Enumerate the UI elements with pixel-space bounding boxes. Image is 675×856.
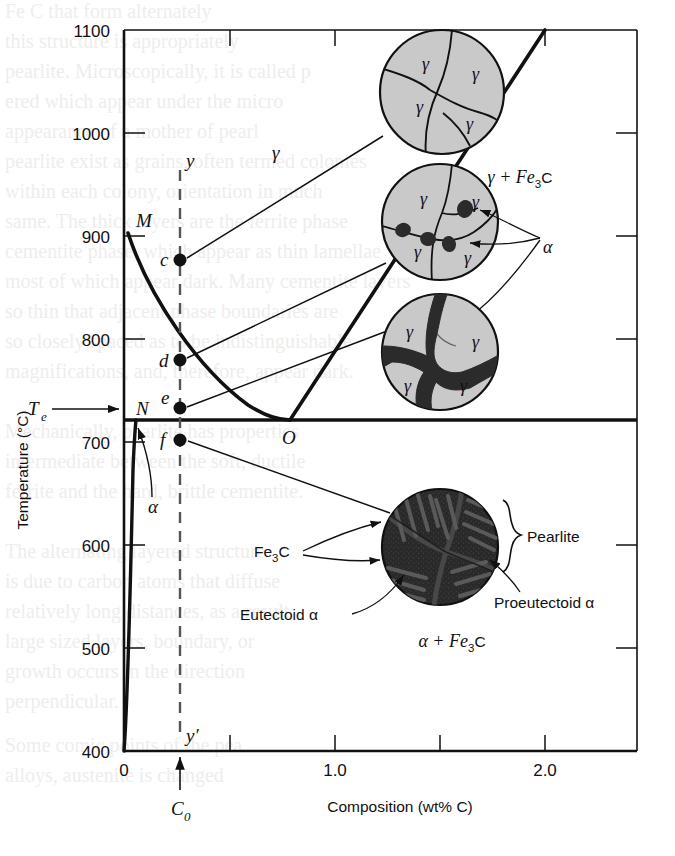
- phase-diagram-figure: Fe C that form alternately this structur…: [0, 0, 675, 856]
- y-tick-700: 700: [82, 434, 110, 453]
- micrograph2-gamma-1: γ: [420, 189, 428, 209]
- point-marker-f: [174, 434, 187, 447]
- svg-text:is due to carbon atoms that di: is due to carbon atoms that diffuse: [5, 570, 280, 592]
- y-tick-1100: 1100: [73, 22, 110, 41]
- eutectoid-alpha-label: Eutectoid α: [240, 606, 318, 623]
- svg-text:intermediate between the soft,: intermediate between the soft, ductile: [5, 450, 306, 472]
- point-label-d: d: [159, 350, 169, 371]
- point-label-e: e: [161, 387, 169, 408]
- y-tick-800: 800: [82, 331, 110, 350]
- label-line-y-prime: y′: [184, 725, 199, 746]
- c0-label-sub: 0: [184, 809, 191, 824]
- micrograph2-gamma-3: γ: [414, 242, 422, 262]
- point-label-c: c: [160, 249, 169, 270]
- svg-text:alloys, austenite is changed: alloys, austenite is changed: [5, 764, 224, 787]
- micrograph3-gamma-4: γ: [460, 376, 468, 396]
- point-label-M: M: [135, 210, 153, 231]
- y-tick-400: 400: [82, 743, 110, 762]
- fe3c-label-right: C: [279, 543, 290, 560]
- gamma-fe3c-right: C: [541, 169, 552, 186]
- point-marker-c: [174, 254, 187, 267]
- micrograph3-gamma-3: γ: [404, 376, 412, 396]
- svg-text:Fe C that form alternately: Fe C that form alternately: [5, 0, 212, 23]
- region-label-gamma: γ: [272, 142, 280, 163]
- region-label-alpha: α: [148, 496, 159, 517]
- gamma-fe3c-left: γ + Fe: [488, 167, 535, 187]
- y-tick-900: 900: [82, 228, 110, 247]
- micrograph1-gamma-3: γ: [416, 97, 424, 117]
- svg-text:cementite phase, which appear: cementite phase, which appear as thin la…: [5, 240, 381, 263]
- y-tick-600: 600: [82, 537, 110, 556]
- y-axis-title: Temperature (°C): [14, 410, 31, 529]
- c0-label-main: C: [171, 798, 184, 819]
- alpha-fe3c-right: C: [474, 633, 485, 650]
- point-label-O: O: [282, 427, 296, 448]
- svg-text:ered which appear under the mi: ered which appear under the micro: [5, 90, 283, 113]
- micrograph2-gamma-2: γ: [472, 192, 480, 212]
- point-marker-d: [174, 354, 187, 367]
- proeutectoid-alpha-label: Proeutectoid α: [494, 594, 594, 611]
- svg-text:this structure is appropriatel: this structure is appropriately: [5, 30, 239, 53]
- svg-text:most of which appear dark. Man: most of which appear dark. Many cementit…: [5, 270, 411, 293]
- fe3c-label-left: Fe: [254, 543, 272, 560]
- point-label-N: N: [135, 398, 150, 419]
- svg-text:perpendicular.: perpendicular.: [5, 690, 119, 713]
- y-tick-500: 500: [82, 640, 110, 659]
- svg-text:same. The thick layers are the: same. The thick layers are the ferrite p…: [5, 210, 348, 233]
- svg-text:Mechanically, pearlite has pro: Mechanically, pearlite has properties: [5, 420, 299, 443]
- te-label-sub: e: [41, 409, 47, 424]
- point-marker-e: [174, 402, 187, 415]
- micrograph3-gamma-1: γ: [406, 322, 414, 342]
- micrograph2-gamma-4: γ: [464, 248, 472, 268]
- phase-diagram-svg: Fe C that form alternately this structur…: [0, 0, 675, 856]
- micrograph2-alpha-pointer: α: [543, 237, 553, 257]
- svg-text:appearance of a mother of pear: appearance of a mother of pearl: [5, 120, 259, 143]
- x-tick-1: 1.0: [323, 761, 347, 780]
- te-label-main: T: [28, 398, 40, 419]
- alpha-fe3c-left: α + Fe: [418, 631, 468, 651]
- x-axis-title: Composition (wt% C): [327, 798, 473, 815]
- micrograph1-gamma-1: γ: [422, 54, 430, 74]
- micrograph3-gamma-2: γ: [472, 332, 480, 352]
- svg-text:The alternating layered struct: The alternating layered structure: [5, 540, 266, 563]
- pearlite-label: Pearlite: [527, 528, 580, 545]
- svg-text:within each colony, orientatio: within each colony, orientation in much: [5, 180, 323, 203]
- svg-text:pearlite. Microscopically, it: pearlite. Microscopically, it is called …: [5, 60, 311, 83]
- y-tick-1000: 1000: [72, 125, 110, 144]
- x-tick-2: 2.0: [533, 761, 557, 780]
- x-tick-0: 0: [119, 761, 128, 780]
- micrograph1-gamma-2: γ: [472, 64, 480, 84]
- micrograph1-gamma-4: γ: [466, 114, 474, 134]
- label-line-y: y: [184, 150, 195, 171]
